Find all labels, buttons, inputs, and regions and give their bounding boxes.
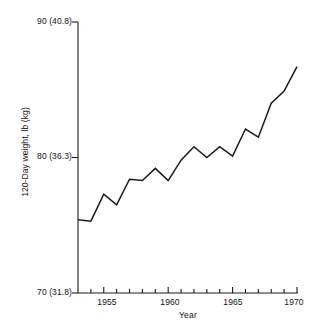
axes	[78, 22, 298, 293]
data-series-line	[78, 67, 297, 221]
line-chart: 120-Day weight, lb (kg) 90 (40.8) 80 (36…	[0, 0, 316, 336]
x-tick-marks	[91, 287, 297, 293]
plot-area	[0, 0, 316, 336]
y-tick-marks	[72, 22, 78, 293]
